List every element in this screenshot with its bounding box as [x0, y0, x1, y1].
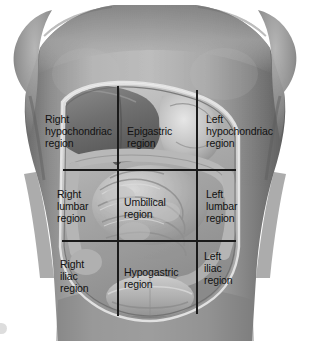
abdominal-cavity — [60, 80, 242, 326]
viscera-group — [60, 80, 242, 326]
torso-illustration — [0, 0, 310, 343]
cecum — [70, 249, 102, 275]
abdominal-regions-figure: Right hypochondriac region Epigastric re… — [0, 0, 310, 343]
ascending-colon — [71, 168, 76, 252]
